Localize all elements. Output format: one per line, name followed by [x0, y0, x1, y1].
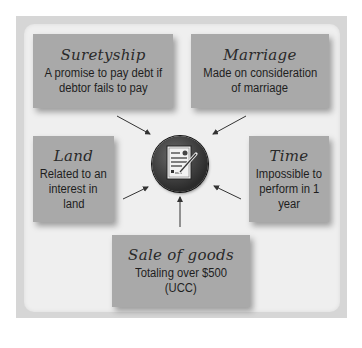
box-desc-line: A promise to pay debt if	[44, 66, 162, 81]
signed-contract-icon	[152, 136, 208, 192]
box-desc-line: Made on consideration	[203, 66, 317, 81]
box-marriage: Marriage Made on consideration of marria…	[191, 34, 329, 108]
arrow-time	[214, 186, 241, 199]
box-sale-of-goods: Sale of goods Totaling over $500 (UCC)	[112, 235, 250, 307]
box-title: Land	[54, 147, 93, 165]
box-desc-line: debtor fails to pay	[59, 81, 148, 96]
box-desc-line: land	[63, 197, 84, 212]
box-desc-line: Impossible to	[256, 167, 322, 182]
box-time: Time Impossible to perform in 1 year	[249, 136, 329, 222]
box-title: Time	[269, 147, 308, 165]
box-desc-line: perform in 1	[259, 182, 319, 197]
box-desc-line: interest in	[49, 182, 98, 197]
center-hub	[152, 136, 208, 192]
box-desc-line: (UCC)	[165, 281, 197, 296]
box-desc-line: Related to an	[40, 167, 107, 182]
arrow-suretyship	[117, 116, 150, 134]
box-title: Sale of goods	[128, 246, 234, 264]
box-desc-line: of marriage	[232, 81, 289, 96]
box-land: Land Related to an interest in land	[33, 136, 114, 222]
arrow-land	[123, 187, 148, 199]
arrow-marriage	[213, 116, 246, 134]
box-desc-line: Totaling over $500	[135, 266, 227, 281]
box-title: Suretyship	[60, 46, 145, 64]
box-title: Marriage	[223, 46, 296, 64]
box-desc-line: year	[278, 197, 300, 212]
box-suretyship: Suretyship A promise to pay debt if debt…	[33, 34, 173, 108]
